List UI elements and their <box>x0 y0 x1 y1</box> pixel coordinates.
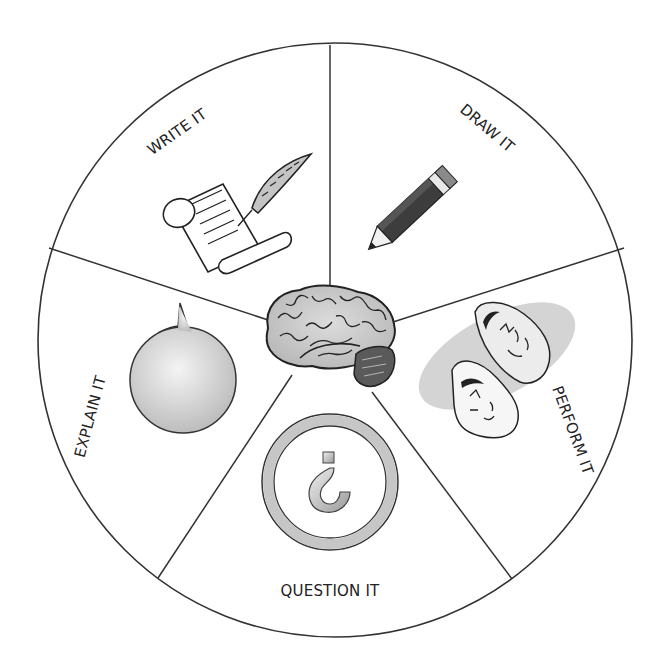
segment-label-question: QUESTION IT <box>281 582 381 600</box>
question-mark-icon <box>262 414 398 550</box>
learning-wheel-diagram: WRITE IT DRAW IT PERFORM I <box>0 0 667 665</box>
